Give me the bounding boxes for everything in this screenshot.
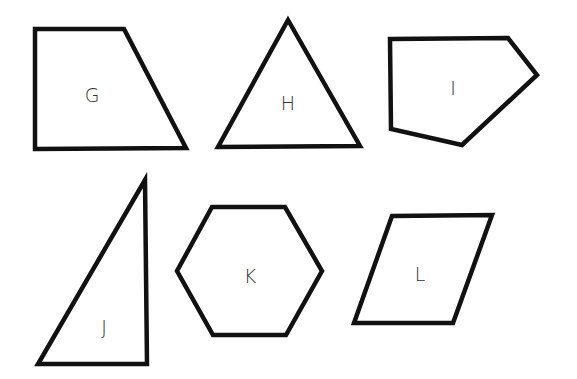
label-k: K <box>244 265 257 287</box>
right-triangle-j <box>38 180 147 364</box>
shape-k: K <box>177 207 322 335</box>
shape-j: J <box>38 180 147 364</box>
label-j: J <box>101 316 107 338</box>
shape-h: H <box>218 20 360 147</box>
shape-g: G <box>35 29 186 149</box>
shapes-diagram: G H I J K L <box>0 0 577 379</box>
shape-i: I <box>390 38 537 145</box>
label-h: H <box>281 92 295 114</box>
label-l: L <box>415 263 426 285</box>
label-g: G <box>85 84 100 106</box>
triangle-h <box>218 20 360 147</box>
shape-l: L <box>354 215 492 323</box>
trapezoid-g <box>35 29 186 149</box>
label-i: I <box>450 77 456 99</box>
pentagon-i <box>390 38 537 145</box>
